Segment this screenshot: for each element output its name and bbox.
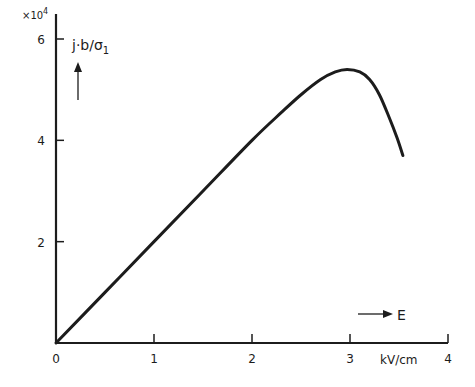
x-tick-label: 1 (150, 352, 158, 366)
up-arrow-icon (74, 62, 82, 100)
x-axis-symbol: E (397, 307, 406, 323)
ticks: 01234246 (37, 33, 452, 366)
x-tick-label: 0 (52, 352, 60, 366)
right-arrow-icon (358, 310, 393, 318)
x-tick-label: 3 (346, 352, 354, 366)
data-curve (56, 69, 403, 343)
y-tick-label: 4 (37, 134, 45, 148)
x-axis-unit: kV/cm (380, 353, 418, 367)
chart-canvas: 01234246 ×104 j·b/σ1 E kV/cm (0, 0, 475, 387)
x-tick-label: 2 (248, 352, 256, 366)
y-axis-label: j·b/σ1 (71, 37, 109, 56)
y-tick-label: 6 (37, 33, 45, 47)
y-multiplier: ×104 (22, 7, 48, 21)
axes (56, 14, 448, 343)
y-tick-label: 2 (37, 236, 45, 250)
x-tick-label: 4 (444, 352, 452, 366)
